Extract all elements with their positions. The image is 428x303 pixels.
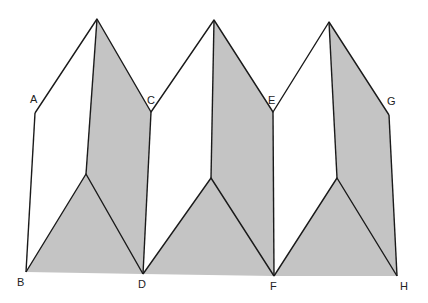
label-E: E — [268, 94, 275, 106]
label-F: F — [270, 280, 277, 292]
label-A: A — [30, 93, 38, 105]
label-D: D — [138, 278, 146, 290]
label-C: C — [147, 94, 155, 106]
label-B: B — [17, 276, 24, 288]
edge-E-F — [273, 112, 274, 276]
fold-diagram: A B C D E F G H — [0, 0, 428, 303]
label-H: H — [400, 280, 408, 292]
label-G: G — [387, 95, 396, 107]
